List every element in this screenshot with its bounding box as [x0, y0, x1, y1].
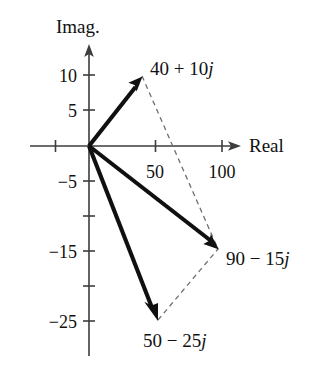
axes-group [30, 44, 241, 356]
imag-tick-label-5: 5 [68, 101, 77, 121]
phasor-vector-40-plus-10j [89, 77, 143, 147]
imaginary-axis-label: Imag. [56, 16, 100, 37]
phasor-diagram-svg: Imag. Real 50 100 10 5 −5 −15 −25 40 + 1… [0, 0, 313, 368]
phasor-label-90-minus-15j-prefix: 90 − 15 [226, 248, 284, 269]
phasor-vectors-group [89, 77, 219, 322]
phasor-shaft-40-plus-10j [89, 87, 136, 146]
phasor-label-50-minus-25j-prefix: 50 − 25 [143, 330, 201, 351]
imag-tick-label-10: 10 [59, 66, 77, 86]
imag-tick-label-minus25: −25 [49, 312, 77, 332]
imag-tick-label-minus15: −15 [49, 242, 77, 262]
imag-tick-label-minus5: −5 [58, 172, 77, 192]
construction-line-lower [158, 249, 218, 320]
phasor-label-40-plus-10j: 40 + 10j [150, 58, 214, 79]
real-tick-label-100: 100 [209, 162, 236, 182]
phasor-diagram-figure: Imag. Real 50 100 10 5 −5 −15 −25 40 + 1… [0, 0, 313, 368]
imag-tick-labels-group: 10 5 −5 −15 −25 [49, 66, 77, 332]
real-tick-label-50: 50 [146, 162, 164, 182]
phasor-label-40-plus-10j-prefix: 40 + 10 [150, 58, 208, 79]
real-tick-labels-group: 50 100 [146, 162, 236, 182]
phasor-label-90-minus-15j: 90 − 15j [226, 248, 290, 269]
phasor-label-50-minus-25j: 50 − 25j [143, 330, 207, 351]
real-axis-label: Real [249, 135, 284, 156]
